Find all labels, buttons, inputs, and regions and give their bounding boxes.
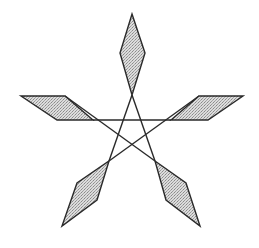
pentagram-svg bbox=[0, 0, 259, 248]
line-right-to-lower-left bbox=[109, 96, 199, 161]
line-left-to-lower-right bbox=[65, 96, 155, 161]
rhombus-lower-right bbox=[155, 161, 200, 226]
pentagram-diagram bbox=[0, 0, 259, 248]
line-top-to-lower-right bbox=[132, 95, 155, 161]
rhombus-lower-left bbox=[62, 161, 109, 226]
pentagram-lines bbox=[65, 95, 199, 161]
line-top-to-lower-left bbox=[109, 95, 132, 161]
rhombus-top bbox=[120, 14, 145, 95]
